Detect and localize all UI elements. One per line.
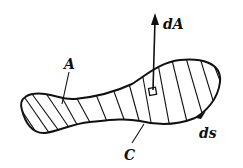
boundary-curve — [21, 60, 220, 134]
label-ds: ds — [199, 125, 217, 141]
normal-vector — [153, 20, 155, 90]
ds-arrow-icon — [196, 111, 206, 119]
region-hatching — [18, 58, 226, 138]
label-curve-C: C — [124, 147, 135, 163]
label-C-leader — [132, 124, 144, 143]
normal-arrowhead-icon — [151, 13, 159, 25]
label-dA: dA — [163, 16, 184, 32]
label-area-A: A — [62, 56, 75, 72]
area-curve-diagram: A C dA ds — [0, 0, 243, 168]
